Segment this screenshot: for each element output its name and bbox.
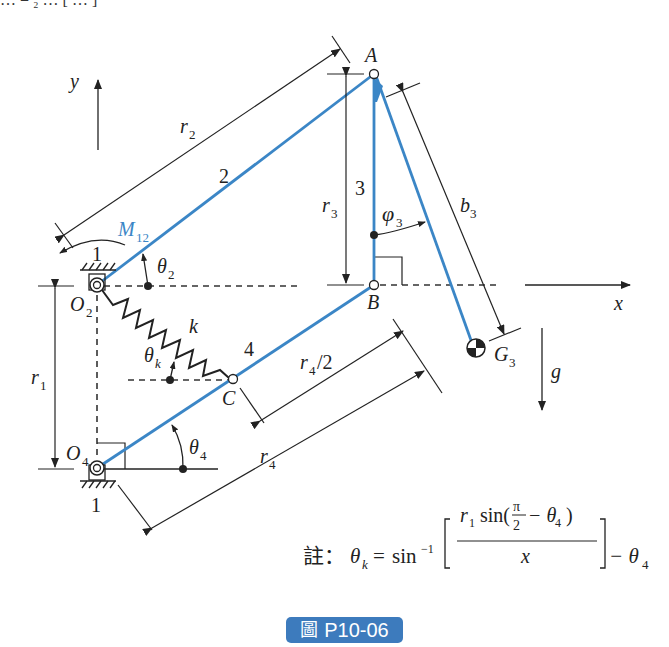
joint-o2 (90, 278, 104, 292)
link-4-number: 4 (244, 338, 254, 360)
mechanism-diagram: y x g k 2 3 4 1 (0, 0, 669, 647)
svg-text:−1: −1 (421, 542, 434, 556)
svg-text:4: 4 (269, 457, 276, 472)
svg-text:r: r (260, 445, 268, 467)
svg-text:sin(: sin( (480, 504, 510, 527)
r4-extension-o4 (118, 485, 152, 530)
svg-text:2: 2 (513, 518, 520, 533)
thetak-dot (166, 376, 174, 384)
svg-text:θ: θ (144, 344, 154, 366)
svg-text:4: 4 (82, 454, 89, 469)
svg-text:4: 4 (309, 363, 316, 378)
svg-text:θ: θ (350, 544, 360, 568)
point-g3-label: G 3 (494, 343, 516, 370)
r2-extension-o2 (55, 223, 73, 248)
svg-text:G: G (494, 343, 509, 365)
svg-text:r: r (322, 194, 330, 216)
r3-label: r 3 (322, 194, 338, 221)
svg-text:− θ: − θ (528, 504, 556, 526)
svg-text:12: 12 (136, 230, 149, 245)
svg-text:=: = (373, 544, 385, 568)
r2-dimension-line (64, 49, 340, 235)
theta4-dot (179, 465, 187, 473)
svg-text:O: O (70, 293, 84, 315)
r1-label: r 1 (31, 366, 47, 393)
x-axis-label: x (613, 292, 623, 314)
note-formula: 註： θ k = sin −1 r 1 sin( π 2 − θ 4 ) x −… (303, 499, 649, 572)
joint-o4 (90, 461, 104, 475)
svg-text:− θ: − θ (609, 544, 639, 568)
svg-text:/2: /2 (317, 351, 333, 373)
svg-text:4: 4 (642, 557, 649, 572)
svg-text:4: 4 (200, 448, 207, 463)
gravity-label: g (551, 360, 561, 383)
thetak-label: θ k (144, 344, 161, 371)
spring-k (102, 290, 229, 378)
svg-text:π: π (513, 499, 520, 514)
point-b-label: B (367, 291, 379, 313)
svg-text:x: x (520, 545, 530, 567)
spring-label: k (189, 315, 199, 337)
r2-label: r 2 (180, 115, 196, 142)
svg-text:1: 1 (469, 516, 475, 530)
theta2-dot (144, 282, 152, 290)
ground-label-top: 1 (92, 243, 102, 265)
link-2-number: 2 (219, 165, 229, 187)
svg-text:O: O (66, 442, 80, 464)
svg-text:2: 2 (189, 127, 196, 142)
b3-extension-a (386, 83, 420, 97)
theta4-label: θ 4 (189, 436, 207, 463)
svg-text:): ) (566, 504, 573, 527)
center-of-gravity-g3 (467, 339, 485, 357)
phi3-label: φ 3 (382, 201, 403, 230)
joint-a (370, 70, 379, 79)
b3-extension-g3 (489, 328, 521, 341)
joint-c (229, 375, 238, 384)
svg-text:M: M (117, 218, 136, 240)
y-axis-label: y (68, 70, 79, 93)
svg-text:r: r (460, 504, 468, 526)
svg-text:3: 3 (470, 206, 477, 221)
svg-text:φ: φ (382, 201, 394, 226)
svg-text:b: b (460, 194, 470, 216)
r2-extension-a (332, 36, 350, 63)
theta2-label: θ 2 (157, 255, 175, 282)
moment-label: M 12 (117, 218, 149, 245)
theta2-arrow (143, 254, 148, 286)
svg-text:θ: θ (189, 436, 199, 458)
r4half-extension-b (393, 319, 442, 393)
svg-text:r: r (180, 115, 188, 137)
point-o2-label: O 2 (70, 293, 93, 320)
point-c-label: C (222, 387, 236, 409)
svg-text:1: 1 (40, 378, 47, 393)
svg-text:2: 2 (86, 305, 93, 320)
svg-text:註：: 註： (303, 544, 345, 568)
svg-text:3: 3 (396, 215, 403, 230)
svg-text:r: r (31, 366, 39, 388)
svg-text:3: 3 (331, 206, 338, 221)
right-angle-b (374, 257, 402, 285)
ground-label-bottom: 1 (91, 494, 101, 516)
r4half-label: r 4 /2 (300, 351, 333, 378)
theta4-arc (172, 425, 183, 469)
link-3-number: 3 (355, 177, 365, 199)
joint-b (370, 281, 379, 290)
r4half-extension-c (240, 388, 264, 423)
svg-text:k: k (362, 557, 368, 572)
svg-text:r: r (300, 351, 308, 373)
figure-icon: 圖 (300, 617, 318, 643)
svg-text:sin: sin (392, 544, 417, 568)
point-a-label: A (363, 44, 378, 66)
phi3-dot (370, 231, 378, 239)
svg-text:2: 2 (168, 267, 175, 282)
point-o4-label: O 4 (66, 442, 89, 469)
figure-number: P10-06 (324, 617, 389, 643)
figure-caption-badge: 圖 P10-06 (286, 617, 403, 643)
svg-text:θ: θ (157, 255, 167, 277)
b3-dimension-line (403, 92, 504, 334)
svg-text:3: 3 (509, 355, 516, 370)
link-2 (97, 74, 374, 285)
b3-label: b 3 (460, 194, 477, 221)
r4-label: r 4 (260, 445, 276, 472)
svg-text:4: 4 (555, 516, 561, 530)
